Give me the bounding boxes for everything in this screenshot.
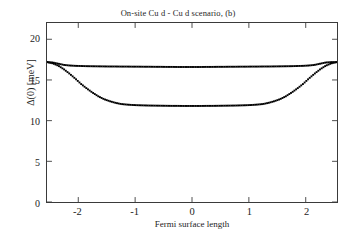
chart-title: On-site Cu d - Cu d scenario, (b) [0,8,356,18]
x-tick-label: 0 [177,206,207,217]
x-axis-label: Fermi surface length [46,219,338,229]
y-axis-tick-labels: 05101520 [0,22,40,203]
x-tick-label: 1 [234,206,264,217]
y-tick-label: 10 [6,115,40,126]
data-series [47,61,337,68]
data-series-group [47,61,337,107]
data-plot [47,23,337,202]
x-tick-label: -1 [120,206,150,217]
axis-ticks [47,23,337,202]
y-tick-label: 15 [6,74,40,85]
figure-canvas: On-site Cu d - Cu d scenario, (b) Δ(0) [… [0,0,356,240]
y-tick-label: 20 [6,33,40,44]
y-tick-label: 0 [6,198,40,209]
plot-area [46,22,338,203]
x-tick-label: 2 [292,206,322,217]
x-tick-label: -2 [62,206,92,217]
data-series [47,61,337,107]
y-tick-label: 5 [6,156,40,167]
